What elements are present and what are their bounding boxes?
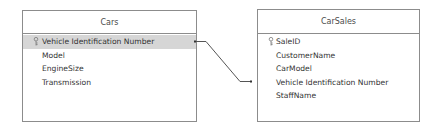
field-cars-enginesize[interactable]: EngineSize (23, 62, 196, 76)
field-carsales-carmodel[interactable]: CarModel (258, 62, 419, 76)
field-label: Model (42, 49, 65, 63)
table-carsales-title[interactable]: CarSales (258, 10, 419, 34)
field-label: SaleID (276, 35, 300, 49)
field-carsales-staffname[interactable]: StaffName (258, 89, 419, 103)
field-cars-vin[interactable]: Vehicle Identification Number (23, 35, 196, 49)
table-carsales[interactable]: CarSales SaleID CustomerName CarModel (257, 9, 420, 122)
field-cars-transmission[interactable]: Transmission (23, 76, 196, 90)
table-carsales-field-list: SaleID CustomerName CarModel Vehicle Ide… (258, 34, 419, 103)
field-label: Vehicle Identification Number (42, 35, 154, 49)
table-carsales-title-text: CarSales (321, 17, 356, 26)
field-label: CarModel (276, 62, 312, 76)
field-cars-model[interactable]: Model (23, 49, 196, 63)
table-cars-field-list: Vehicle Identification Number Model Engi… (23, 34, 196, 89)
field-label: EngineSize (42, 62, 84, 76)
key-icon (267, 35, 275, 49)
field-label: StaffName (276, 89, 316, 103)
field-carsales-vin[interactable]: Vehicle Identification Number (258, 76, 419, 90)
field-carsales-saleid[interactable]: SaleID (258, 35, 419, 49)
relationships-canvas: Cars Vehicle Identification Number Model (0, 0, 442, 130)
field-label: Vehicle Identification Number (276, 76, 388, 90)
key-icon (32, 35, 40, 49)
field-label: Transmission (42, 76, 91, 90)
field-label: CustomerName (276, 49, 335, 63)
table-cars[interactable]: Cars Vehicle Identification Number Model (22, 10, 197, 122)
table-cars-title[interactable]: Cars (23, 11, 196, 34)
field-carsales-customername[interactable]: CustomerName (258, 49, 419, 63)
relationship-end-endpoint (250, 81, 252, 83)
table-cars-title-text: Cars (101, 18, 119, 27)
